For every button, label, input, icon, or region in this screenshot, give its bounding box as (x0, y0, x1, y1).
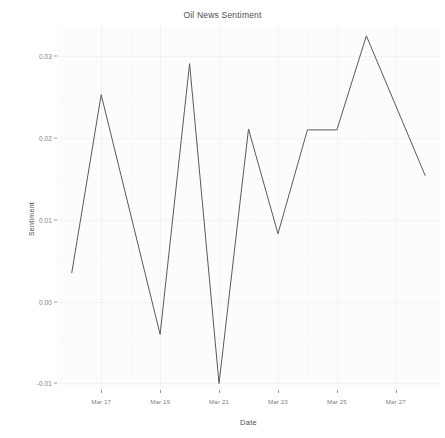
y-tick-label: 0.03 (6, 53, 52, 60)
y-tick-label: 0.02 (6, 135, 52, 142)
x-tick-mark (396, 390, 397, 393)
x-tick-mark (219, 390, 220, 393)
y-tick-label: -0.01 (6, 380, 52, 387)
x-tick-mark (278, 390, 279, 393)
x-tick-mark (101, 390, 102, 393)
y-tick-mark (54, 138, 57, 139)
x-tick-label: Mar 17 (91, 398, 111, 405)
x-tick-label: Mar 27 (386, 398, 406, 405)
sentiment-line-series (57, 26, 440, 390)
oil-news-sentiment-chart: Oil News Sentiment 0.030.020.010.00-0.01… (0, 0, 445, 438)
y-tick-mark (54, 219, 57, 220)
y-tick-mark (54, 301, 57, 302)
y-tick-mark (54, 383, 57, 384)
y-tick-label: 0.00 (6, 298, 52, 305)
chart-title: Oil News Sentiment (0, 10, 445, 20)
x-tick-label: Mar 21 (209, 398, 229, 405)
plot-panel (57, 26, 440, 390)
x-tick-label: Mar 23 (268, 398, 288, 405)
y-axis-title: Sentiment (28, 202, 35, 236)
x-tick-mark (337, 390, 338, 393)
x-tick-label: Mar 25 (327, 398, 347, 405)
x-axis-title: Date (57, 418, 440, 427)
y-tick-mark (54, 56, 57, 57)
x-tick-mark (160, 390, 161, 393)
x-tick-label: Mar 19 (150, 398, 170, 405)
